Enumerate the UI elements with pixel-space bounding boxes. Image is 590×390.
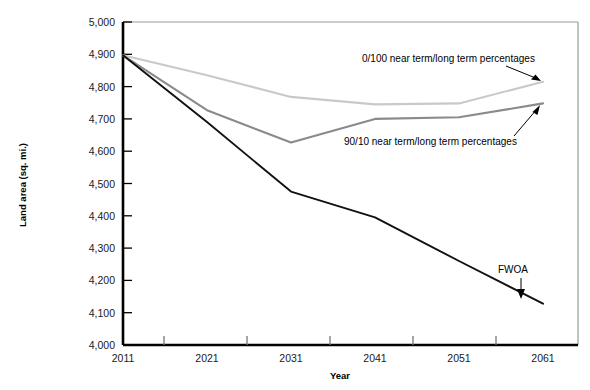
y-tick-label: 4,900 — [89, 48, 115, 60]
y-tick-label: 4,500 — [89, 178, 115, 190]
x-axis-tick-labels: 2011 2021 2031 2041 2051 2061 — [112, 352, 555, 364]
y-tick-label: 4,200 — [89, 274, 115, 286]
annotation-90-10-label: 90/10 near term/long term percentages — [344, 136, 517, 147]
y-tick-label: 4,300 — [89, 242, 115, 254]
line-chart: 5,000 4,900 4,800 4,700 4,600 4,500 4,40… — [0, 0, 590, 390]
annotation-0-100-label: 0/100 near term/long term percentages — [362, 53, 535, 64]
x-axis-ticks — [164, 336, 496, 345]
y-axis-ticks — [123, 22, 132, 345]
x-axis-title: Year — [330, 370, 350, 381]
y-tick-label: 4,100 — [89, 307, 115, 319]
y-tick-label: 4,400 — [89, 210, 115, 222]
x-tick-label: 2041 — [363, 352, 387, 364]
annotation-90-10: 90/10 near term/long term percentages — [344, 105, 540, 147]
chart-container: 5,000 4,900 4,800 4,700 4,600 4,500 4,40… — [0, 0, 590, 390]
x-tick-label: 2021 — [195, 352, 219, 364]
x-tick-label: 2061 — [531, 352, 555, 364]
y-axis-tick-labels: 5,000 4,900 4,800 4,700 4,600 4,500 4,40… — [89, 16, 115, 351]
x-tick-label: 2051 — [447, 352, 471, 364]
arrowhead-icon — [531, 75, 541, 82]
y-tick-label: 5,000 — [89, 16, 115, 28]
y-axis-title: Land area (sq. mi.) — [17, 143, 28, 227]
annotation-fwoa-label: FWOA — [498, 264, 528, 275]
x-tick-label: 2031 — [279, 352, 303, 364]
y-tick-label: 4,000 — [89, 339, 115, 351]
y-tick-label: 4,600 — [89, 145, 115, 157]
x-tick-label: 2011 — [112, 352, 135, 364]
y-tick-label: 4,700 — [89, 113, 115, 125]
y-tick-label: 4,800 — [89, 81, 115, 93]
annotation-0-100: 0/100 near term/long term percentages — [362, 53, 541, 81]
series-line-fwoa — [123, 55, 543, 303]
